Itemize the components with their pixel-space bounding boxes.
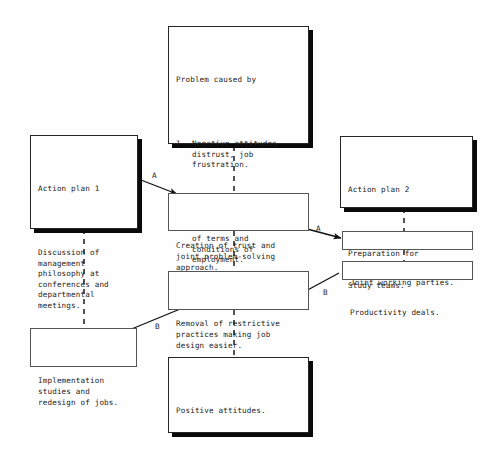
problem-item-1-text: Negative attitudes distrust, job frustra…	[192, 139, 277, 171]
box-implementation-studies[interactable]: Implementation studies and redesign of j…	[30, 328, 137, 367]
arrow-label-b-left: B	[155, 322, 160, 331]
spacer	[38, 216, 130, 227]
positive-attitudes-line-1: Positive attitudes.	[176, 406, 301, 417]
arrow-label-a-left: A	[152, 171, 157, 180]
problem-item-1-number: 1	[176, 139, 192, 171]
box-creation-of-trust[interactable]: Creation of trust and joint problem-solv…	[168, 193, 309, 231]
problem-item-1: 1 Negative attitudes distrust, job frust…	[176, 139, 301, 171]
box-productivity-deals[interactable]: Productivity deals.	[342, 261, 473, 280]
action-plan-2-heading: Action plan 2	[348, 185, 465, 196]
action-plan-1-heading: Action plan 1	[38, 184, 130, 195]
spacer	[176, 438, 301, 449]
box-removal-of-restrictive-practices[interactable]: Removal of restrictive practices making …	[168, 271, 309, 310]
box-joint-working-parties[interactable]: Joint working parties.	[342, 231, 473, 250]
problem-heading: Problem caused by	[176, 75, 301, 86]
creation-of-trust-body: Creation of trust and joint problem-solv…	[176, 241, 301, 273]
removal-of-restrictive-practices-body: Removal of restrictive practices making …	[176, 319, 301, 351]
diagram-canvas: A A B B Problem caused by 1 Negative att…	[0, 0, 499, 455]
box-action-plan-2[interactable]: Action plan 2 Preparation for productivi…	[340, 136, 473, 208]
spacer	[348, 217, 465, 228]
arrow-label-b-right: B	[323, 288, 328, 297]
box-action-plan-1[interactable]: Action plan 1 Discussion of management p…	[30, 135, 138, 229]
implementation-studies-body: Implementation studies and redesign of j…	[38, 376, 129, 408]
productivity-deals-body: Productivity deals.	[350, 308, 465, 319]
action-plan-1-body: Discussion of management philosophy at c…	[38, 248, 130, 312]
box-positive-attitudes[interactable]: Positive attitudes. Commitment to object…	[168, 357, 309, 433]
box-problem-caused-by[interactable]: Problem caused by 1 Negative attitudes d…	[168, 26, 309, 144]
arrow-label-a-right: A	[316, 224, 321, 233]
spacer	[176, 107, 301, 118]
